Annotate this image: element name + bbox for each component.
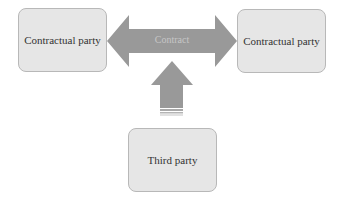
contractual-party-right-node: Contractual party — [237, 9, 326, 73]
arrow-stripe — [160, 109, 183, 111]
arrow-stripe — [160, 112, 183, 114]
node-label: Contractual party — [242, 35, 322, 48]
contractual-party-left-node: Contractual party — [18, 8, 107, 72]
node-label: Third party — [133, 154, 213, 167]
arrow-stripe — [160, 115, 183, 116]
third-party-node: Third party — [128, 128, 217, 192]
node-label: Contractual party — [23, 34, 103, 47]
third-party-up-arrow — [151, 61, 193, 108]
contract-label: Contract — [140, 34, 204, 45]
